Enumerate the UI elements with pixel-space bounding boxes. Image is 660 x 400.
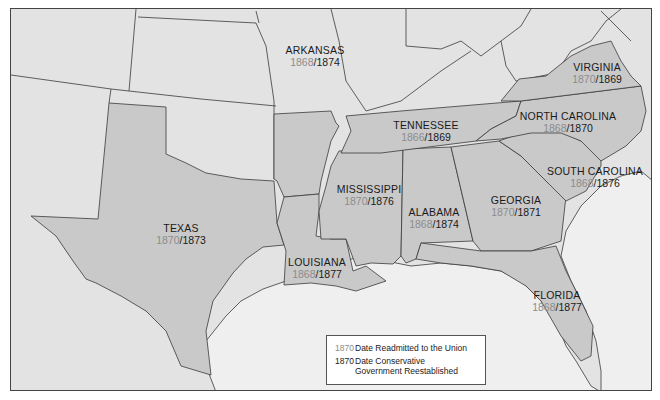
state-dates: 1868/1870 (520, 122, 617, 134)
readmission-year: 1870 (572, 73, 595, 85)
legend-year-black: 1870 (335, 356, 355, 366)
label-louisiana: LOUISIANA 1868/1877 (288, 256, 346, 280)
label-south-carolina: SOUTH CAROLINA 1868/1876 (547, 165, 643, 189)
state-name: GEORGIA (491, 194, 541, 206)
conservative-year: 1876 (596, 177, 619, 189)
label-arkansas: ARKANSAS 1868/1874 (286, 44, 345, 68)
state-name: NORTH CAROLINA (520, 110, 617, 122)
state-name: TEXAS (156, 222, 206, 234)
conservative-year: 1873 (182, 234, 205, 246)
state-dates: 1870/1869 (572, 73, 622, 85)
legend-text-line1: Date Conservative (355, 356, 425, 366)
conservative-year: 1869 (598, 73, 621, 85)
readmission-year: 1870 (344, 195, 367, 207)
legend-text-line2: Government Reestablished (355, 366, 458, 376)
state-name: SOUTH CAROLINA (547, 165, 643, 177)
state-dates: 1868/1874 (286, 56, 345, 68)
legend-conservative: 1870Date ConservativeGovernment Reestabl… (335, 356, 458, 376)
readmission-year: 1868 (290, 56, 313, 68)
state-dates: 1868/1874 (408, 218, 459, 230)
legend-year-gray: 1870 (335, 343, 355, 353)
state-dates: 1870/1876 (337, 195, 402, 207)
conservative-year: 1877 (558, 301, 581, 313)
state-name: LOUISIANA (288, 256, 346, 268)
readmission-year: 1870 (491, 206, 514, 218)
state-name: FLORIDA (532, 289, 582, 301)
legend-text: Date ConservativeGovernment Reestablishe… (355, 356, 458, 376)
state-name: TENNESSEE (393, 119, 458, 131)
state-name: ARKANSAS (286, 44, 345, 56)
label-texas: TEXAS 1870/1873 (156, 222, 206, 246)
state-name: MISSISSIPPI (337, 183, 402, 195)
readmission-year: 1868 (570, 177, 593, 189)
conservative-year: 1870 (569, 122, 592, 134)
readmission-year: 1866 (401, 131, 424, 143)
state-dates: 1868/1877 (532, 301, 582, 313)
conservative-year: 1869 (427, 131, 450, 143)
conservative-year: 1874 (435, 218, 458, 230)
label-north-carolina: NORTH CAROLINA 1868/1870 (520, 110, 617, 134)
state-name: VIRGINIA (572, 61, 622, 73)
state-dates: 1868/1876 (547, 177, 643, 189)
conservative-year: 1874 (316, 56, 339, 68)
legend-readmitted: 1870Date Readmitted to the Union (335, 343, 467, 353)
conservative-year: 1877 (318, 268, 341, 280)
map-frame: TEXAS 1870/1873 ARKANSAS 1868/1874 LOUIS… (10, 8, 652, 391)
label-mississippi: MISSISSIPPI 1870/1876 (337, 183, 402, 207)
state-dates: 1870/1873 (156, 234, 206, 246)
label-tennessee: TENNESSEE 1866/1869 (393, 119, 458, 143)
legend-text: Date Readmitted to the Union (355, 343, 467, 353)
label-alabama: ALABAMA 1868/1874 (408, 206, 459, 230)
state-dates: 1870/1871 (491, 206, 541, 218)
state-name: ALABAMA (408, 206, 459, 218)
state-dates: 1868/1877 (288, 268, 346, 280)
readmission-year: 1868 (292, 268, 315, 280)
label-florida: FLORIDA 1868/1877 (532, 289, 582, 313)
label-virginia: VIRGINIA 1870/1869 (572, 61, 622, 85)
readmission-year: 1868 (409, 218, 432, 230)
conservative-year: 1876 (370, 195, 393, 207)
readmission-year: 1870 (156, 234, 179, 246)
state-dates: 1866/1869 (393, 131, 458, 143)
label-georgia: GEORGIA 1870/1871 (491, 194, 541, 218)
readmission-year: 1868 (532, 301, 555, 313)
conservative-year: 1871 (517, 206, 540, 218)
map-legend: 1870Date Readmitted to the Union 1870Dat… (326, 335, 486, 385)
readmission-year: 1868 (543, 122, 566, 134)
